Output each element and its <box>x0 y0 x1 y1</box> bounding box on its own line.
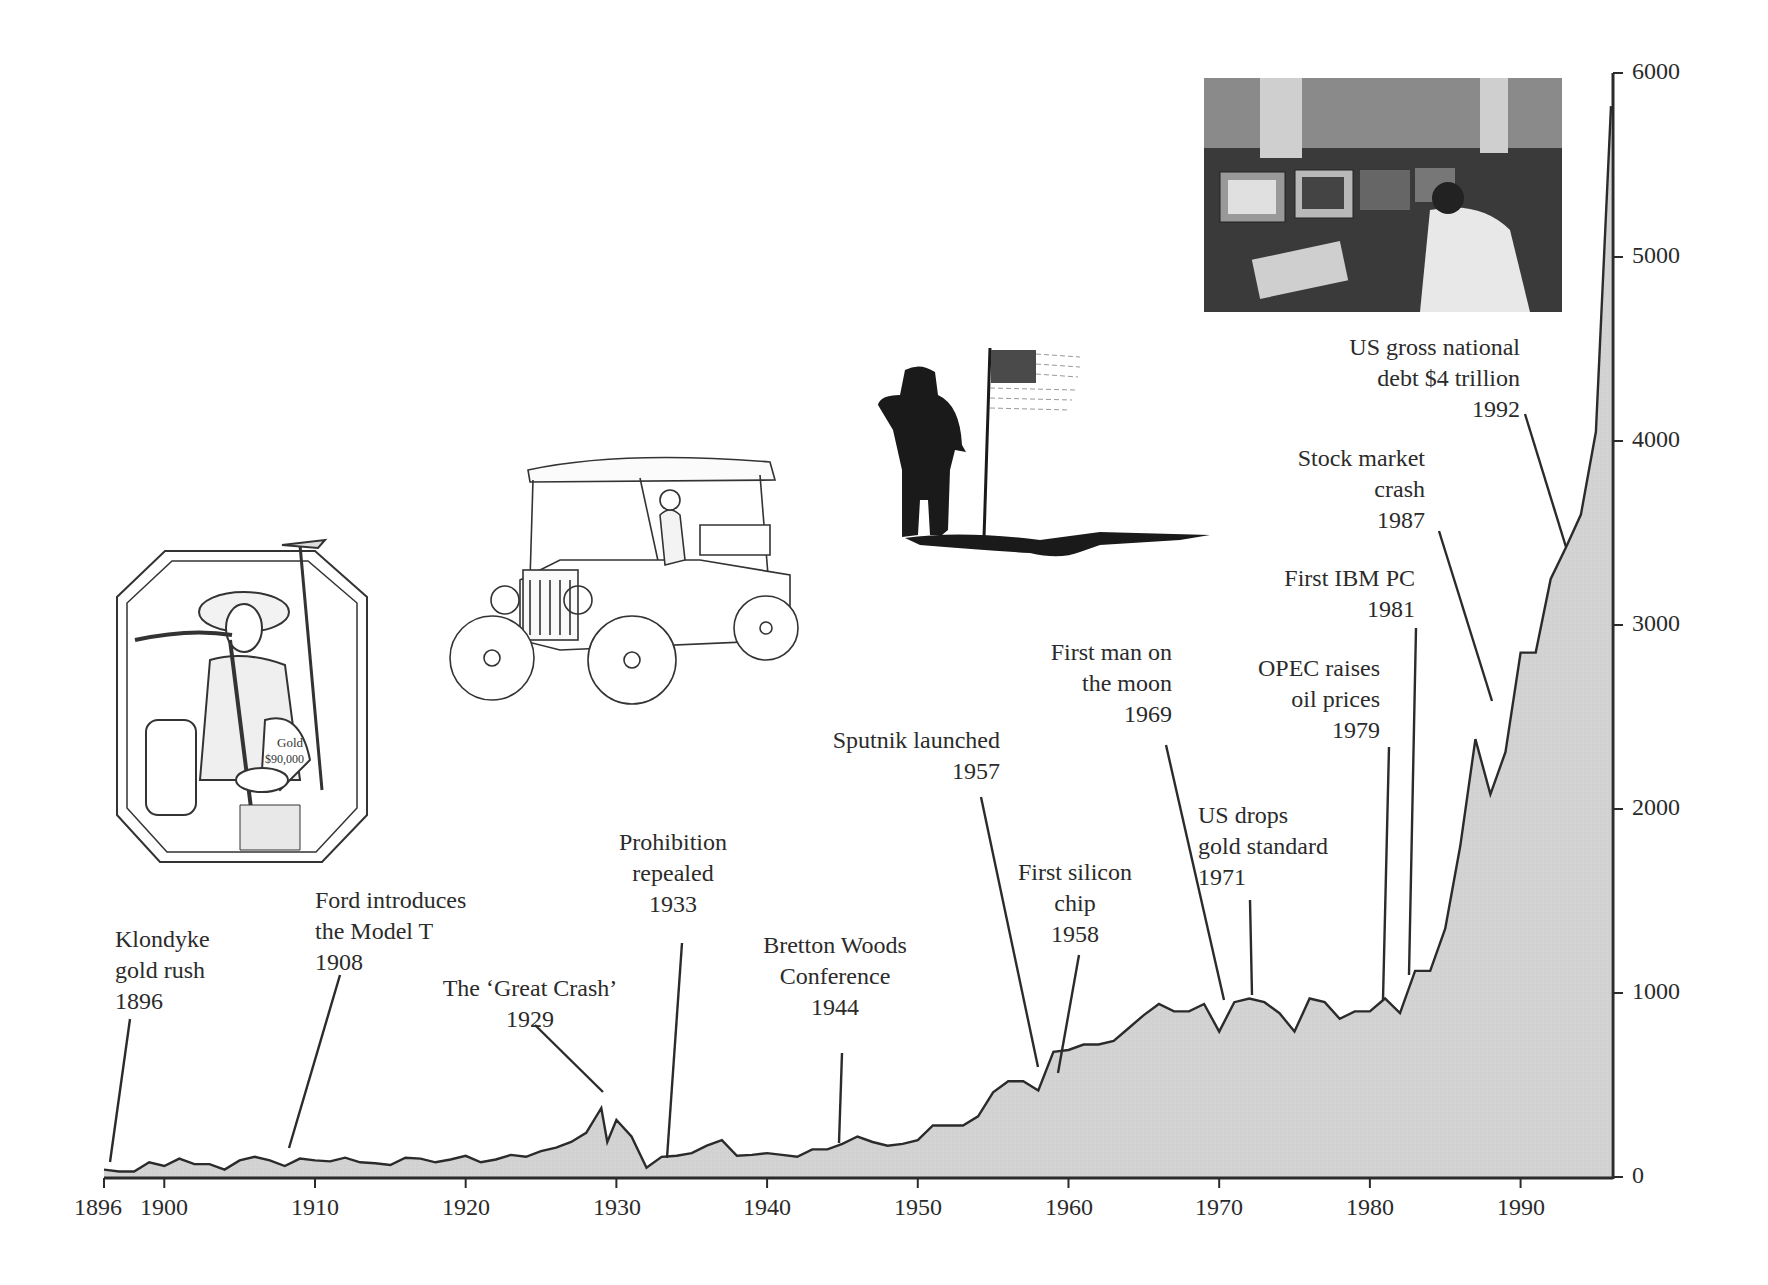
gold-miner-illustration: Gold $90,000 <box>117 540 367 862</box>
svg-text:$90,000: $90,000 <box>265 752 304 766</box>
annotation-ford-model-t: Ford introduces the Model T 1908 <box>315 885 466 978</box>
annotation-ibm-pc: First IBM PC 1981 <box>1230 563 1415 625</box>
gold-bag-text: Gold <box>277 735 304 750</box>
annotation-great-crash: The ‘Great Crash’ 1929 <box>410 973 650 1035</box>
y-tick-6000: 6000 <box>1632 58 1680 85</box>
trading-floor-photo <box>1204 78 1562 312</box>
moon-landing-illustration <box>878 348 1210 556</box>
annotation-bretton-woods: Bretton Woods Conference 1944 <box>740 930 930 1023</box>
x-tick-1896: 1896 <box>74 1194 122 1221</box>
x-tick-1970: 1970 <box>1195 1194 1243 1221</box>
annotation-prohibition: Prohibition repealed 1933 <box>598 827 748 920</box>
y-tick-5000: 5000 <box>1632 242 1680 269</box>
chart-canvas: Gold $90,000 <box>0 0 1768 1285</box>
model-t-car-illustration <box>450 458 798 705</box>
annotation-moon-landing: First man on the moon 1969 <box>1000 637 1172 730</box>
x-tick-1920: 1920 <box>442 1194 490 1221</box>
annotation-opec: OPEC raises oil prices 1979 <box>1200 653 1380 746</box>
annotation-gold-standard: US drops gold standard 1971 <box>1198 800 1328 893</box>
annotation-klondyke: Klondyke gold rush 1896 <box>115 924 210 1017</box>
x-tick-1960: 1960 <box>1045 1194 1093 1221</box>
x-tick-1980: 1980 <box>1346 1194 1394 1221</box>
y-tick-0: 0 <box>1632 1162 1644 1189</box>
x-tick-1930: 1930 <box>593 1194 641 1221</box>
annotation-stock-crash-1987: Stock market crash 1987 <box>1250 443 1425 536</box>
x-tick-1910: 1910 <box>291 1194 339 1221</box>
y-tick-1000: 1000 <box>1632 978 1680 1005</box>
x-tick-1950: 1950 <box>894 1194 942 1221</box>
x-tick-1990: 1990 <box>1497 1194 1545 1221</box>
x-tick-1900: 1900 <box>140 1194 188 1221</box>
y-tick-2000: 2000 <box>1632 794 1680 821</box>
y-tick-4000: 4000 <box>1632 426 1680 453</box>
annotation-silicon-chip: First silicon chip 1958 <box>1000 857 1150 950</box>
annotation-sputnik: Sputnik launched 1957 <box>780 725 1000 787</box>
x-tick-1940: 1940 <box>743 1194 791 1221</box>
y-tick-3000: 3000 <box>1632 610 1680 637</box>
annotation-national-debt: US gross national debt $4 trillion 1992 <box>1290 332 1520 425</box>
